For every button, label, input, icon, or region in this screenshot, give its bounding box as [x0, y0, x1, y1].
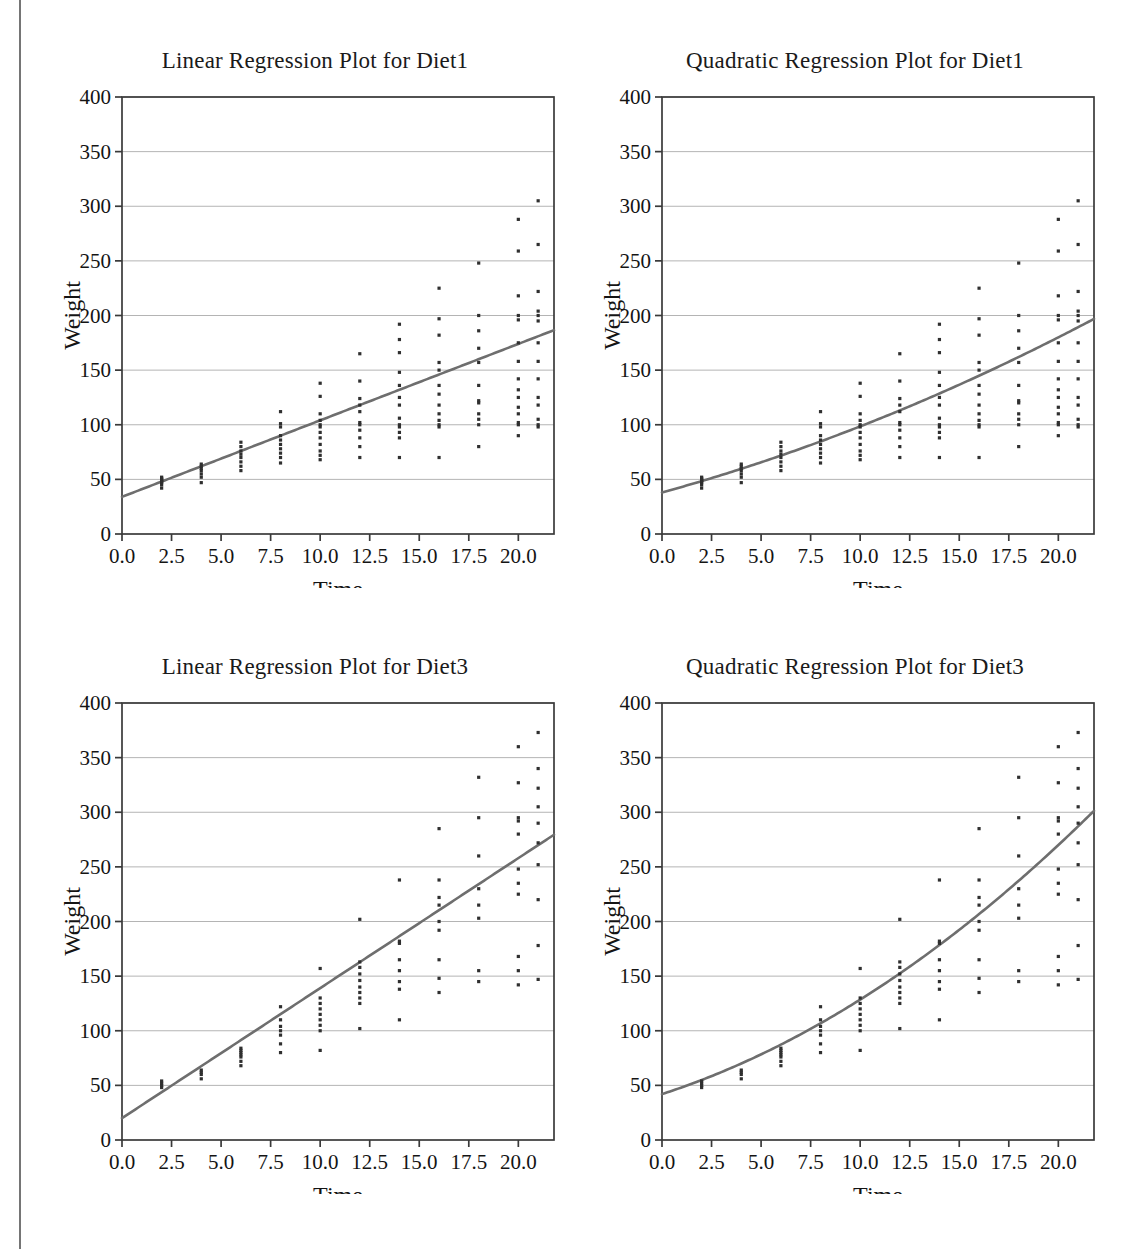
data-point: [977, 369, 980, 372]
x-tick-label: 20.0: [1040, 1150, 1077, 1174]
data-point: [517, 983, 520, 986]
data-point: [898, 445, 901, 448]
data-point: [537, 396, 540, 399]
data-point: [437, 958, 440, 961]
y-tick-label: 400: [620, 691, 652, 715]
data-point: [1077, 822, 1080, 825]
data-point: [700, 487, 703, 490]
data-point: [358, 991, 361, 994]
data-point: [517, 294, 520, 297]
data-point: [437, 929, 440, 932]
data-point: [859, 436, 862, 439]
data-point: [938, 351, 941, 354]
data-point: [977, 991, 980, 994]
data-point: [898, 996, 901, 999]
data-point: [319, 1002, 322, 1005]
y-tick-label: 50: [630, 1073, 651, 1097]
data-point: [537, 731, 540, 734]
data-point: [1077, 767, 1080, 770]
data-point: [358, 960, 361, 963]
x-axis-title: Time: [313, 576, 363, 588]
data-point: [517, 314, 520, 317]
data-point: [239, 1060, 242, 1063]
x-tick-label: 5.0: [208, 544, 234, 568]
data-point: [859, 412, 862, 415]
data-point: [859, 1007, 862, 1010]
data-point: [1057, 745, 1060, 748]
scatter-points: [160, 199, 540, 490]
chart-title: Quadratic Regression Plot for Diet3: [600, 654, 1110, 680]
data-point: [358, 445, 361, 448]
data-point: [1057, 955, 1060, 958]
data-point: [537, 290, 540, 293]
y-tick-label: 100: [80, 1019, 112, 1043]
data-point: [1057, 781, 1060, 784]
data-point: [279, 461, 282, 464]
data-point: [1077, 805, 1080, 808]
data-point: [398, 323, 401, 326]
data-point: [938, 396, 941, 399]
data-point: [1077, 377, 1080, 380]
x-tick-label: 2.5: [158, 1150, 184, 1174]
data-point: [1057, 388, 1060, 391]
y-tick-label: 350: [80, 746, 112, 770]
y-axis: 050100150200250300350400: [620, 85, 663, 546]
x-tick-label: 20.0: [500, 1150, 537, 1174]
data-point: [279, 1051, 282, 1054]
y-axis: 050100150200250300350400: [620, 691, 663, 1152]
y-tick-label: 350: [80, 140, 112, 164]
data-point: [437, 456, 440, 459]
data-point: [779, 441, 782, 444]
data-point: [859, 443, 862, 446]
data-point: [477, 980, 480, 983]
data-point: [517, 882, 520, 885]
data-point: [200, 462, 203, 465]
x-tick-label: 12.5: [891, 1150, 928, 1174]
data-point: [819, 425, 822, 428]
data-point: [859, 1024, 862, 1027]
data-point: [537, 360, 540, 363]
y-tick-label: 400: [620, 85, 652, 109]
data-point: [977, 929, 980, 932]
data-point: [977, 334, 980, 337]
data-point: [859, 967, 862, 970]
y-axis: 050100150200250300350400: [80, 691, 123, 1152]
data-point: [779, 469, 782, 472]
data-point: [1077, 341, 1080, 344]
data-point: [819, 1025, 822, 1028]
data-point: [437, 317, 440, 320]
data-point: [537, 805, 540, 808]
data-point: [358, 436, 361, 439]
data-point: [779, 1047, 782, 1050]
data-point: [239, 460, 242, 463]
data-point: [358, 397, 361, 400]
data-point: [819, 443, 822, 446]
data-point: [239, 1047, 242, 1050]
data-point: [1057, 983, 1060, 986]
data-point: [898, 403, 901, 406]
data-point: [938, 1018, 941, 1021]
data-point: [700, 1079, 703, 1082]
data-point: [1017, 412, 1020, 415]
data-point: [977, 920, 980, 923]
chart-panel-linear-diet3: Linear Regression Plot for Diet3 0501001…: [60, 654, 570, 1194]
data-point: [319, 1029, 322, 1032]
data-point: [1057, 434, 1060, 437]
y-tick-label: 100: [80, 413, 112, 437]
data-point: [1077, 314, 1080, 317]
data-point: [779, 449, 782, 452]
y-tick-label: 400: [80, 85, 112, 109]
x-axis: 0.02.55.07.510.012.515.017.520.0: [109, 534, 537, 568]
data-point: [398, 456, 401, 459]
x-axis-title: Time: [853, 1182, 903, 1194]
data-point: [517, 388, 520, 391]
data-point: [1077, 423, 1080, 426]
data-point: [938, 969, 941, 972]
data-point: [517, 218, 520, 221]
x-tick-label: 0.0: [649, 544, 675, 568]
y-tick-label: 0: [101, 522, 112, 546]
chart-title: Linear Regression Plot for Diet3: [60, 654, 570, 680]
data-point: [1017, 887, 1020, 890]
data-point: [517, 867, 520, 870]
data-point: [898, 991, 901, 994]
